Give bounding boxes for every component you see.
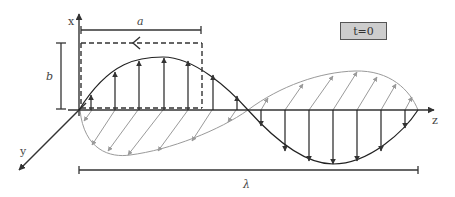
b-label: b [46,70,53,83]
y-axis [19,103,86,170]
a-label: a [137,15,144,28]
wavelength-label: λ [242,178,250,191]
x-axis-label: x [68,15,75,28]
y-axis-label: y [19,145,27,158]
dashed-rectangle [81,43,202,108]
wavelength-bar [79,166,418,174]
b-dimension-bar [56,43,66,109]
time-indicator: t=0 [340,22,387,40]
secondary-wave [80,71,418,156]
secondary-wave-lower-lobe [80,110,248,156]
z-axis-label: z [432,114,438,127]
